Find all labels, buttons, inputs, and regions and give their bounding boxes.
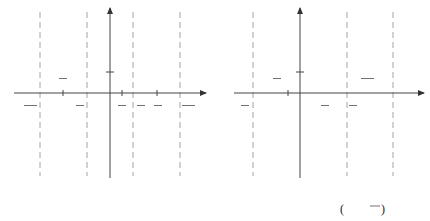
graph-b: ( ) <box>234 8 424 216</box>
asymptote-lines-b <box>253 12 393 176</box>
graph-a <box>14 8 206 178</box>
svg-text:(: ( <box>340 202 344 216</box>
svg-text:): ) <box>381 202 385 216</box>
caption-b: ( ) <box>340 202 385 216</box>
tangent-graphs-figure: ( ) <box>0 0 430 221</box>
